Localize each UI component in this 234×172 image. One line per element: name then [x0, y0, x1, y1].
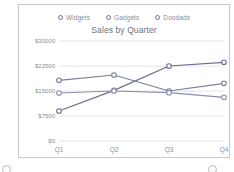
data-point-gadgets-q2[interactable]	[112, 73, 117, 78]
data-point-doodads-q2[interactable]	[112, 89, 117, 94]
legend-label-doodads: Doodads	[163, 14, 190, 21]
data-point-widgets-q1[interactable]	[57, 109, 62, 114]
x-tick-label-q2: Q2	[110, 146, 119, 153]
chart-legend: Widgets Gadgets Doodads	[19, 14, 229, 21]
y-tick-label: $7500	[38, 113, 55, 119]
legend-item-widgets[interactable]: Widgets	[58, 14, 90, 21]
open-circle-marker-icon	[106, 15, 111, 20]
x-tick-label-q4: Q4	[220, 146, 229, 153]
open-circle-marker-icon	[155, 15, 160, 20]
y-tick-label: $30000	[35, 38, 55, 44]
y-tick-label: $15000	[35, 88, 55, 94]
data-point-gadgets-q1[interactable]	[57, 78, 62, 83]
open-circle-marker-icon	[58, 15, 63, 20]
plot-area: $30000$22500$15000$7500$0 Q1Q2Q3Q4	[19, 35, 231, 158]
series-line-gadgets	[59, 75, 224, 91]
data-point-gadgets-q4[interactable]	[222, 81, 227, 86]
data-point-widgets-q3[interactable]	[167, 64, 172, 69]
data-point-doodads-q1[interactable]	[57, 91, 62, 96]
legend-item-doodads[interactable]: Doodads	[155, 14, 190, 21]
chart-card: Widgets Gadgets Doodads Sales by Quarter…	[18, 4, 230, 158]
x-tick-label-q1: Q1	[55, 146, 64, 153]
x-tick-label-q3: Q3	[165, 146, 174, 153]
legend-label-gadgets: Gadgets	[114, 14, 139, 21]
legend-label-widgets: Widgets	[66, 14, 90, 21]
series-line-doodads	[59, 91, 224, 97]
right-orb-decoration	[208, 165, 217, 172]
legend-item-gadgets[interactable]: Gadgets	[106, 14, 139, 21]
data-point-doodads-q4[interactable]	[222, 95, 227, 100]
data-point-widgets-q4[interactable]	[222, 60, 227, 65]
left-orb-decoration	[2, 165, 11, 172]
y-tick-label: $22500	[35, 63, 55, 69]
data-point-doodads-q3[interactable]	[167, 90, 172, 95]
y-tick-label: $0	[48, 138, 55, 144]
chart-title: Sales by Quarter	[19, 25, 229, 35]
